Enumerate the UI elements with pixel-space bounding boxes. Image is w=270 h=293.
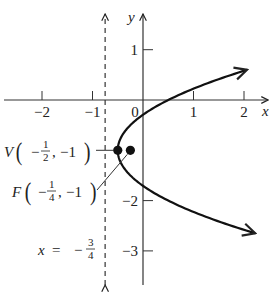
- vertex-comma: ,: [52, 144, 56, 160]
- directrix-label-var: x: [37, 242, 45, 258]
- y-tick-label: −3: [122, 243, 138, 259]
- parabola-lower-branch: [118, 150, 255, 233]
- focus-point: [126, 146, 135, 155]
- vertex-x-numerator: 1: [43, 138, 49, 150]
- focus-x-denominator: 4: [49, 191, 55, 203]
- x-tick-label: −1: [85, 104, 101, 120]
- x-tick-label: 2: [240, 104, 248, 120]
- y-tick-label: 1: [131, 42, 139, 58]
- directrix-label-minus: −: [74, 242, 82, 258]
- directrix-numerator: 3: [88, 236, 94, 248]
- vertex-close-paren: ): [84, 137, 90, 165]
- x-axis-label: x: [261, 103, 269, 119]
- parabola-chart: x y −2−1012 1−2−3 V ( − 1 2 , −1 ) F ( −…: [0, 0, 270, 293]
- vertex-point: [113, 146, 122, 155]
- y-tick-label: −2: [122, 193, 138, 209]
- vertex-x-denominator: 2: [43, 151, 49, 163]
- x-tick-label: 1: [190, 104, 198, 120]
- focus-close-paren: ): [90, 177, 96, 205]
- directrix-denominator: 4: [88, 249, 94, 261]
- focus-open-paren: (: [25, 177, 31, 205]
- vertex-y-coord: −1: [60, 144, 76, 160]
- vertex-label: V ( − 1 2 , −1 ): [4, 137, 90, 165]
- focus-x-numerator: 1: [49, 178, 55, 190]
- focus-comma: ,: [58, 184, 62, 200]
- y-axis-label: y: [126, 9, 135, 25]
- focus-label: F ( − 1 4 , −1 ): [11, 177, 96, 205]
- vertex-letter: V: [4, 144, 15, 160]
- directrix-label-eq: =: [52, 242, 60, 258]
- vertex-open-paren: (: [16, 137, 22, 165]
- focus-minus: −: [38, 184, 46, 200]
- x-tick-label: −2: [34, 104, 50, 120]
- directrix-label: x = − 3 4: [37, 236, 95, 261]
- focus-y-coord: −1: [66, 184, 82, 200]
- vertex-minus: −: [31, 144, 39, 160]
- focus-leader-line: [97, 154, 127, 190]
- focus-letter: F: [11, 184, 22, 200]
